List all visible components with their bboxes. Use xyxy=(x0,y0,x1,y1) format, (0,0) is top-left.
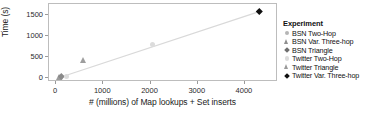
diamond-marker-icon xyxy=(283,46,291,54)
y-tick-label: 1000 xyxy=(17,31,43,40)
x-tick-mark xyxy=(55,81,56,84)
legend-item[interactable]: Twitter Triangle xyxy=(283,63,383,71)
plot-frame xyxy=(48,3,277,81)
x-tick-label: 4000 xyxy=(229,86,259,95)
x-tick-label: 0 xyxy=(40,86,70,95)
legend: Experiment BSN Two-HopBSN Var. Three-hop… xyxy=(283,19,383,80)
legend-item[interactable]: BSN Two-Hop xyxy=(283,29,383,37)
chart-root: Time (s) 050010001500 01000200030004000 … xyxy=(0,0,384,113)
x-tick-mark xyxy=(244,81,245,84)
legend-item-label: Twitter Var. Three-hop xyxy=(292,71,359,80)
x-tick-mark xyxy=(150,81,151,84)
legend-item[interactable]: BSN Triangle xyxy=(283,46,383,54)
trend-line xyxy=(49,4,278,82)
y-tick-label: 0 xyxy=(17,73,43,82)
data-point xyxy=(80,57,86,63)
y-axis-title: Time (s) xyxy=(0,25,10,37)
diamond-marker-icon xyxy=(283,72,291,80)
y-tick-label: 1500 xyxy=(17,10,43,19)
legend-title: Experiment xyxy=(283,19,383,28)
y-tick-label: 500 xyxy=(17,52,43,61)
circle-marker-icon xyxy=(283,29,291,37)
x-tick-mark xyxy=(197,81,198,84)
x-tick-label: 1000 xyxy=(87,86,117,95)
legend-item[interactable]: BSN Var. Three-hop xyxy=(283,38,383,46)
x-tick-label: 2000 xyxy=(135,86,165,95)
triangle-marker-icon xyxy=(283,38,291,46)
legend-item[interactable]: Twitter Two-Hop xyxy=(283,55,383,63)
x-tick-label: 3000 xyxy=(182,86,212,95)
circle-marker-icon xyxy=(283,55,291,63)
x-axis-title: # (millions) of Map lookups + Set insert… xyxy=(48,97,277,107)
x-tick-mark xyxy=(102,81,103,84)
legend-items: BSN Two-HopBSN Var. Three-hopBSN Triangl… xyxy=(283,29,383,80)
plot-area xyxy=(49,4,276,80)
triangle-marker-icon xyxy=(283,63,291,71)
legend-item[interactable]: Twitter Var. Three-hop xyxy=(283,72,383,80)
